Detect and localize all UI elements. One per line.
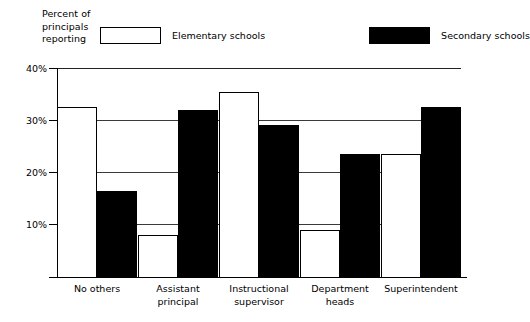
xlabel-instructional-supervisor: Instructional supervisor: [219, 283, 299, 308]
chart-legend: Elementary schools Secondary schools: [100, 24, 530, 46]
bar-group-no-others: [57, 68, 137, 277]
bar-elementary-assistant-principal[interactable]: [138, 235, 178, 277]
bar-group-assistant-principal: [138, 68, 218, 277]
bar-secondary-assistant-principal[interactable]: [178, 110, 218, 277]
ytick-label-20: 20%: [26, 167, 47, 178]
ytick-label-40: 40%: [26, 63, 47, 74]
legend-entry-elementary: Elementary schools: [100, 27, 265, 44]
ytick-mark-20: [49, 172, 57, 173]
bar-group-superintendent: [381, 68, 461, 277]
ytick-mark-30: [49, 120, 57, 121]
plot-area: 40% 30% 20% 10%: [57, 68, 461, 277]
bar-secondary-no-others[interactable]: [97, 191, 137, 277]
ytick-label-10: 10%: [26, 219, 47, 230]
x-axis-line: [49, 277, 467, 278]
bar-secondary-department-heads[interactable]: [340, 154, 380, 277]
ytick-label-30: 30%: [26, 115, 47, 126]
bar-elementary-department-heads[interactable]: [300, 230, 340, 277]
bar-group-instructional-supervisor: [219, 68, 299, 277]
bar-group-department-heads: [300, 68, 380, 277]
y-axis-title: Percent of principals reporting: [42, 8, 90, 46]
xlabel-superintendent: Superintendent: [377, 283, 465, 296]
legend-label-secondary: Secondary schools: [441, 30, 530, 41]
bar-secondary-instructional-supervisor[interactable]: [259, 125, 299, 277]
bar-elementary-no-others[interactable]: [57, 107, 97, 277]
legend-entry-secondary: Secondary schools: [369, 27, 530, 44]
ytick-mark-40: [49, 68, 57, 69]
xlabel-assistant-principal: Assistant principal: [138, 283, 218, 308]
ytick-mark-10: [49, 224, 57, 225]
legend-swatch-elementary-icon: [100, 27, 161, 44]
x-axis-labels: No others Assistant principal Instructio…: [57, 283, 461, 317]
bar-groups: [57, 68, 461, 277]
bar-secondary-superintendent[interactable]: [421, 107, 461, 277]
xlabel-no-others: No others: [57, 283, 137, 296]
legend-label-elementary: Elementary schools: [172, 30, 265, 41]
bar-elementary-instructional-supervisor[interactable]: [219, 92, 259, 277]
bar-elementary-superintendent[interactable]: [381, 154, 421, 277]
legend-swatch-secondary-icon: [369, 27, 430, 44]
xlabel-department-heads: Department heads: [300, 283, 380, 308]
